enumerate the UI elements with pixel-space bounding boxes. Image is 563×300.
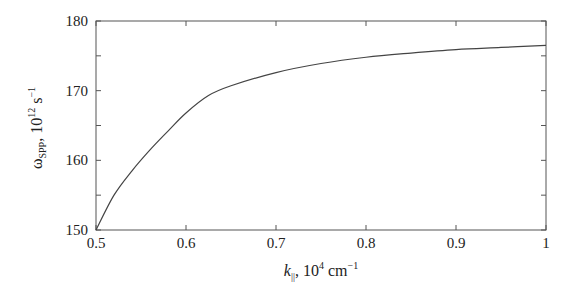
data-line [96, 45, 546, 230]
x-axis-title: k||, 104 cm−1 [284, 260, 358, 282]
x-tick-label: 1 [542, 235, 550, 251]
y-tick-label: 180 [66, 13, 89, 29]
x-tick-label: 0.6 [177, 235, 196, 251]
x-axis-ticks: 0.50.60.70.80.91 [87, 21, 550, 251]
x-tick-label: 0.9 [447, 235, 466, 251]
y-axis-title: ωSPP, 1012 s−1 [26, 87, 48, 169]
y-axis-ticks: 150160170180 [66, 13, 547, 238]
x-tick-label: 0.5 [87, 235, 106, 251]
y-tick-label: 170 [66, 83, 89, 99]
plot-frame [96, 21, 546, 230]
y-tick-label: 160 [66, 152, 89, 168]
x-tick-label: 0.7 [267, 235, 286, 251]
y-tick-label: 150 [66, 222, 89, 238]
chart: 0.50.60.70.80.91 150160170180 k||, 104 c… [0, 0, 563, 300]
x-tick-label: 0.8 [357, 235, 376, 251]
